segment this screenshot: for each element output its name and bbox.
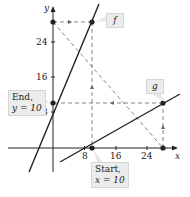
y-axis-label: y [43,3,50,13]
f-label-text: f [113,15,116,25]
x-tick-label-8: 8 [82,151,88,161]
function-g-label: g [146,79,164,94]
end-callout-line1: End, [12,92,42,103]
y-axis-arrow-icon [51,6,56,12]
function-f-label: f [106,13,124,28]
x-axis-label: x [175,151,180,161]
x-tick-label-16: 16 [110,151,122,161]
start-callout-line2: x = 10 [95,175,125,186]
g-label-text: g [152,81,158,91]
y-tick-label-16: 16 [36,72,48,82]
end-callout-line2: y = 10 [12,103,42,114]
start-callout-line1: Start, [95,164,125,175]
start-callout: Start, x = 10 [91,162,129,188]
function-f-line [29,4,99,172]
x-tick-label-24: 24 [141,151,153,161]
x-axis-arrow-icon [172,146,178,151]
direction-arrows [68,20,165,129]
end-callout: End, y = 10 [8,90,46,116]
y-tick-label-24: 24 [36,37,48,47]
